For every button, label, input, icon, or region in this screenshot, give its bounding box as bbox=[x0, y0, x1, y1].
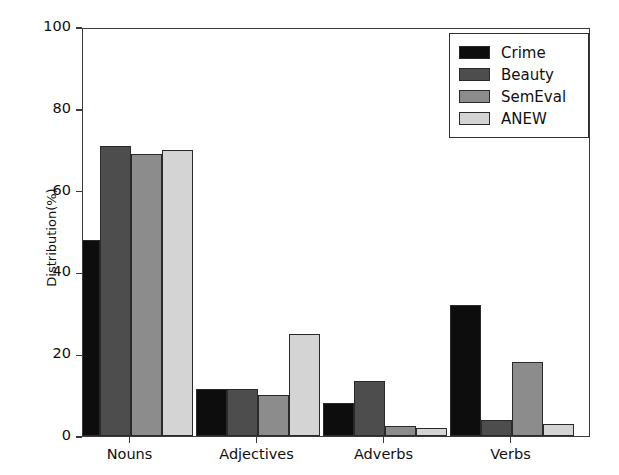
x-tick-label: Adverbs bbox=[354, 446, 413, 462]
x-tick-label: Verbs bbox=[490, 446, 530, 462]
bar bbox=[258, 395, 289, 436]
bar bbox=[512, 362, 543, 436]
bar bbox=[100, 146, 131, 436]
bar-chart-figure: Distribution(%) 020406080100 NounsAdject… bbox=[0, 0, 619, 475]
y-tick-label: 60 bbox=[53, 182, 71, 198]
legend: CrimeBeautySemEvalANEW bbox=[449, 33, 589, 138]
legend-item: ANEW bbox=[459, 108, 579, 129]
legend-label: Beauty bbox=[501, 66, 554, 84]
y-tick-label: 100 bbox=[43, 18, 71, 34]
y-tick-label: 80 bbox=[53, 100, 71, 116]
legend-item: Beauty bbox=[459, 64, 579, 85]
bar bbox=[82, 240, 100, 436]
bar bbox=[416, 428, 447, 436]
y-tick-label: 40 bbox=[53, 263, 71, 279]
x-tick-mark bbox=[383, 437, 384, 443]
bar bbox=[354, 381, 385, 436]
bar bbox=[323, 403, 354, 436]
legend-swatch bbox=[459, 90, 490, 103]
bar bbox=[131, 154, 162, 436]
bar bbox=[385, 426, 416, 436]
legend-swatch bbox=[459, 112, 490, 125]
legend-label: Crime bbox=[501, 44, 546, 62]
legend-label: SemEval bbox=[501, 88, 566, 106]
legend-item: Crime bbox=[459, 42, 579, 63]
y-axis-label: Distribution(%) bbox=[34, 0, 68, 475]
legend-swatch bbox=[459, 46, 490, 59]
x-tick-mark bbox=[129, 437, 130, 443]
bar bbox=[481, 420, 512, 436]
x-tick-label: Adjectives bbox=[219, 446, 294, 462]
bar bbox=[543, 424, 574, 436]
legend-label: ANEW bbox=[501, 110, 547, 128]
bar bbox=[289, 334, 320, 436]
bar bbox=[196, 389, 227, 436]
y-tick-label: 0 bbox=[62, 427, 71, 443]
bar bbox=[450, 305, 481, 436]
legend-swatch bbox=[459, 68, 490, 81]
legend-item: SemEval bbox=[459, 86, 579, 107]
y-tick-label: 20 bbox=[53, 345, 71, 361]
bar bbox=[227, 389, 258, 436]
x-tick-label: Nouns bbox=[107, 446, 153, 462]
bar bbox=[162, 150, 193, 436]
x-tick-mark bbox=[256, 437, 257, 443]
x-tick-mark bbox=[510, 437, 511, 443]
